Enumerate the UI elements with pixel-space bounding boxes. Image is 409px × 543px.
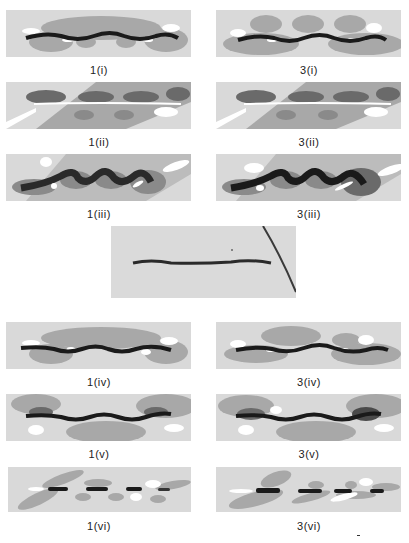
contour-plot-1-iii [6, 154, 191, 201]
panel-label-1-ii: 1(ii) [69, 136, 129, 148]
contour-plot-1-v [6, 394, 191, 441]
contour-plot-3-i [216, 10, 401, 57]
panel-3-iv [216, 322, 401, 369]
panel-label-3-ii: 3(ii) [279, 136, 339, 148]
panel-3-iii [216, 154, 401, 201]
panel-label-3-i: 3(i) [279, 64, 339, 76]
contour-plot-1-ii [6, 82, 191, 129]
panel-3-ii [216, 82, 401, 129]
panel-label-1-iii: 1(iii) [69, 208, 129, 220]
contour-plot-1-iv [6, 322, 191, 369]
panel-1-i [6, 10, 191, 57]
panel-1-vi [8, 467, 191, 512]
panel-1-iii [6, 154, 191, 201]
scan-mark [357, 535, 360, 536]
panel-1-v [6, 394, 191, 441]
panel-3-i [216, 10, 401, 57]
contour-plot-3-ii [216, 82, 401, 129]
contour-plot-3-iv [216, 322, 401, 369]
panel-label-3-iii: 3(iii) [279, 208, 339, 220]
panel-label-3-v: 3(v) [279, 448, 339, 460]
panel-1-iv [6, 322, 191, 369]
panel-label-1-iv: 1(iv) [69, 376, 129, 388]
panel-3-v [216, 394, 401, 441]
panel-label-3-vi: 3(vi) [279, 520, 339, 532]
panel-label-1-i: 1(i) [69, 64, 129, 76]
contour-plot-3-v [216, 394, 401, 441]
contour-plot-1-vi [8, 467, 191, 512]
contour-plot-1-i [6, 10, 191, 57]
center-photograph [111, 226, 296, 298]
panel-1-ii [6, 82, 191, 129]
panel-label-1-v: 1(v) [69, 448, 129, 460]
panel-3-vi [216, 467, 401, 512]
contour-plot-3-iii [216, 154, 401, 201]
panel-label-3-iv: 3(iv) [279, 376, 339, 388]
contour-plot-3-vi [216, 467, 401, 512]
filament-photo [111, 226, 296, 298]
panel-label-1-vi: 1(vi) [69, 520, 129, 532]
